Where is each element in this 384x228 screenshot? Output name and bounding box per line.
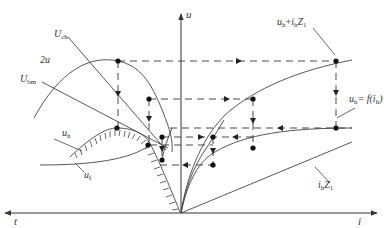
u-h-plus-ih-z1-label: uh+ihZ1	[277, 17, 306, 29]
point-right-lower	[250, 145, 255, 150]
operating-points	[114, 58, 338, 167]
two-u-label: 2u	[40, 55, 50, 65]
u-h-upper-segment	[162, 128, 172, 160]
arrow-right-mid	[224, 96, 230, 102]
arrow-left-upper	[277, 125, 283, 131]
point-far-right	[333, 125, 338, 130]
arrow-right-low	[198, 134, 204, 140]
arrow-down-6	[210, 148, 216, 154]
point-2u-right	[146, 96, 151, 101]
point-center-left	[145, 142, 150, 147]
u-axis-label: u	[186, 9, 192, 20]
ih-z1-label: ihZ1	[318, 180, 333, 192]
u-h-label: uh	[62, 128, 71, 140]
u-ch-label: Uch	[54, 29, 68, 41]
point-right-top	[333, 58, 338, 63]
u-f-curve	[40, 145, 150, 165]
point-right-mid	[250, 96, 255, 101]
i-axis-label: i	[358, 216, 361, 227]
point-right-lower-inner	[210, 162, 215, 167]
two-u-curve	[34, 60, 172, 152]
left-curves	[34, 37, 180, 212]
point-center-lower	[159, 157, 164, 162]
arrow-right-top	[236, 58, 242, 64]
t-axis-label: t	[14, 216, 17, 227]
arrow-left-low	[182, 162, 188, 168]
u-h-f-ih-curve	[181, 128, 352, 213]
arrow-down-2	[146, 116, 152, 122]
point-uh-peak	[114, 125, 119, 130]
arrow-down-3	[250, 118, 256, 124]
arrow-down-1	[115, 91, 121, 97]
u-f-label: uf	[84, 170, 91, 182]
ih-z1-line	[181, 142, 352, 213]
arrow-left-mid	[232, 134, 238, 140]
point-right-upper-inner	[210, 134, 215, 139]
point-center-upper	[159, 134, 164, 139]
u-bm-label: Ubm	[20, 74, 36, 86]
arrow-down-4	[333, 90, 339, 96]
u-h-f-ih-label: uh= f(ih)	[349, 94, 382, 106]
point-peak-2u	[115, 58, 120, 63]
